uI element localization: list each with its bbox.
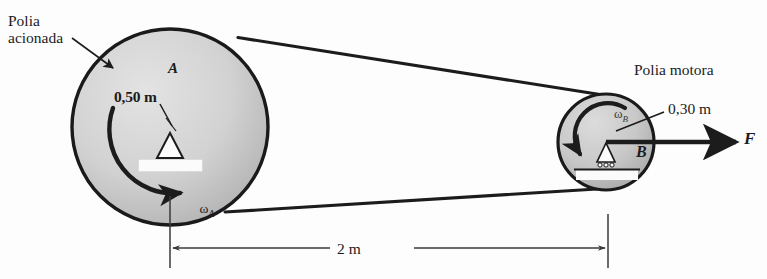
pulley-a: [72, 29, 268, 225]
label-radius-b: 0,30 m: [668, 100, 711, 117]
omega-b-subscript: B: [623, 113, 629, 123]
omega-a-subscript: A: [208, 209, 214, 219]
belt-bottom-span: [225, 189, 597, 212]
label-driver-pulley: Polia motora: [634, 61, 714, 78]
roller-right: [610, 163, 614, 167]
pulley-a-rim: [72, 29, 268, 225]
pulley-b-base-bar: [576, 170, 638, 180]
label-force-f: F: [744, 129, 755, 148]
belt: [225, 38, 600, 213]
roller-mid: [604, 163, 608, 167]
pulley-a-base-bar: [139, 160, 202, 171]
dimension-2m: [170, 196, 608, 268]
pulley-belt-diagram: Polia acionada Polia motora 0,50 m 0,30 …: [0, 0, 767, 279]
diagram-canvas: [0, 0, 767, 279]
label-omega-a: ωA: [186, 186, 214, 235]
omega-b-symbol: ω: [614, 106, 623, 121]
belt-top-span: [238, 38, 600, 95]
roller-left: [598, 163, 602, 167]
label-radius-a: 0,50 m: [114, 88, 157, 105]
label-center-distance: 2 m: [337, 240, 361, 257]
label-driven-pulley: Polia acionada: [8, 12, 63, 47]
label-omega-b: ωB: [601, 92, 628, 138]
label-point-a: A: [168, 60, 178, 77]
label-point-b: B: [636, 143, 647, 161]
